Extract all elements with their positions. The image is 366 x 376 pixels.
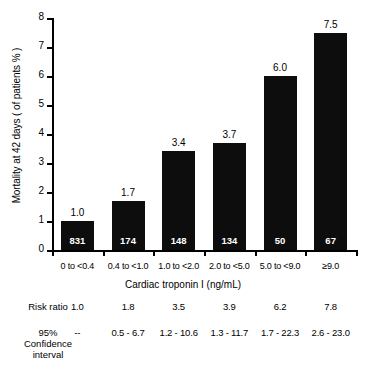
x-axis-category-label: ≥9.0 [301,261,361,271]
x-axis-tick [103,250,105,256]
bar: 50 [264,76,297,250]
y-axis-tick: 6 [47,76,52,78]
plot-area: 012345678 8311741481345067 [52,18,356,250]
risk-ratio-cell: 7.8 [299,301,363,312]
y-axis-tick: 3 [47,163,52,165]
bar-count-label: 148 [162,235,195,246]
bar-count-label: 67 [314,235,347,246]
bar-chart-figure: Mortality at 42 days ( of patients % ) 0… [0,0,366,376]
y-axis-tick-label: 6 [38,69,44,80]
y-axis-title: Mortality at 42 days ( of patients % ) [11,21,22,231]
y-axis-tick-label: 8 [38,11,44,22]
x-axis-tick [356,250,358,256]
bar: 174 [112,201,145,250]
bar-value-label: 3.4 [159,137,199,148]
y-axis-tick-label: 7 [38,40,44,51]
bar-value-label: 1.0 [57,207,97,218]
y-axis-tick: 2 [47,192,52,194]
y-axis-line [52,18,54,250]
bar-count-label: 174 [112,235,145,246]
bar-value-label: 3.7 [209,129,249,140]
x-axis-tick [255,250,257,256]
bar: 134 [213,143,246,250]
y-axis-tick-label: 1 [38,214,44,225]
bar: 831 [61,221,94,250]
ci-row-label-line-2: Confidence [8,338,88,349]
y-axis-tick-label: 0 [38,243,44,254]
bar-value-label: 6.0 [260,62,300,73]
bar: 148 [162,151,195,250]
y-axis-tick-label: 4 [38,127,44,138]
y-axis-tick-label: 5 [38,98,44,109]
y-axis-tick: 4 [47,134,52,136]
bar-count-label: 831 [61,235,94,246]
bar-value-label: 7.5 [311,19,351,30]
x-axis-tick [305,250,307,256]
x-axis-tick [52,250,54,256]
confidence-interval-cell: 2.6 - 23.0 [299,327,363,338]
bar-count-label: 50 [264,235,297,246]
bar: 67 [314,33,347,251]
y-axis-tick: 5 [47,105,52,107]
y-axis-tick-label: 2 [38,185,44,196]
ci-row-label-line-3: interval [8,349,88,360]
bar-value-label: 1.7 [108,187,148,198]
x-axis-tick [153,250,155,256]
x-axis-tick [204,250,206,256]
x-axis-title: Cardiac troponin I (ng/mL) [0,279,366,290]
y-axis-tick: 8 [47,18,52,20]
y-axis-tick-label: 3 [38,156,44,167]
bar-count-label: 134 [213,235,246,246]
y-axis-tick: 1 [47,221,52,223]
y-axis-tick: 7 [47,47,52,49]
